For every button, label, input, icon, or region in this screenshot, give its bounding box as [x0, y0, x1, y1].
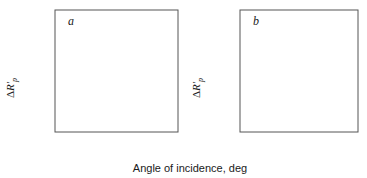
panel-b-ylabel-text: ΔR′p [190, 78, 205, 98]
panel-a: a ΔR′p [4, 10, 178, 132]
panel-b-ylabel: ΔR′p [190, 78, 205, 98]
panel-a-letter: a [68, 14, 74, 28]
figure-svg: a ΔR′p b ΔR′p Angle of incid [0, 0, 367, 178]
panel-a-ylabel-text: ΔR′p [4, 78, 19, 98]
figure-container: a ΔR′p b ΔR′p Angle of incid [0, 0, 367, 178]
panel-b-letter: b [253, 14, 259, 28]
x-axis-title: Angle of incidence, deg [133, 162, 247, 174]
panel-a-ylabel: ΔR′p [4, 78, 19, 98]
panel-a-frame [55, 10, 178, 132]
panel-b: b ΔR′p [190, 10, 358, 132]
panel-b-frame [240, 10, 358, 132]
